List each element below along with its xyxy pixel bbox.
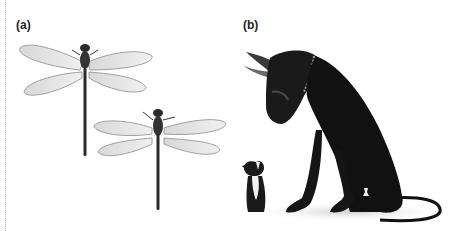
dragonfly-large: [20, 44, 152, 156]
dragonfly-small: [94, 109, 226, 210]
panel-a: (a): [0, 0, 230, 231]
dogs-illustration: [230, 0, 460, 231]
panel-b: (b): [230, 0, 460, 231]
dragonflies-illustration: [0, 0, 230, 231]
great-dane: [244, 51, 440, 221]
chihuahua: [242, 161, 265, 212]
